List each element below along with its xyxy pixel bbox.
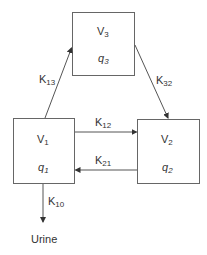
v3-volume-label: V3 [97, 26, 109, 39]
k21-label: K21 [95, 155, 111, 168]
k12-label: K12 [95, 117, 111, 130]
v3-amount-label: q3 [98, 53, 109, 66]
compartment-box-v3 [73, 13, 135, 76]
v2-volume-label: V2 [161, 134, 173, 147]
v2-amount-label: q2 [162, 162, 173, 175]
k10-label: K10 [48, 196, 64, 209]
v1-volume-label: V1 [37, 134, 49, 147]
k32-label: K32 [156, 75, 172, 88]
urine-label: Urine [31, 234, 57, 245]
v1-amount-label: q1 [38, 162, 49, 175]
k13-label: K13 [39, 74, 55, 87]
